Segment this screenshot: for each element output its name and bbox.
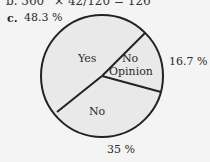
value-label-yes: 48.3 % xyxy=(24,11,62,24)
slice-label-yes: Yes xyxy=(77,52,97,65)
value-label-no: 35 % xyxy=(107,143,135,156)
slice-label-no-opinion-line2: Opinion xyxy=(109,65,153,78)
slice-label-no: No xyxy=(89,105,106,118)
slice-label-no-opinion-line1: No xyxy=(122,52,139,65)
value-label-no-opinion: 16.7 % xyxy=(169,55,207,68)
pie-chart: Yes No Opinion No xyxy=(0,0,210,162)
